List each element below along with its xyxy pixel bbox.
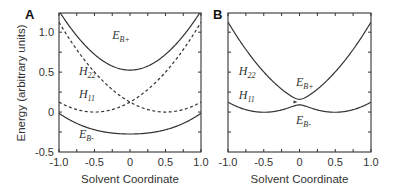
- y-axis-title: Energy (arbitrary units): [15, 24, 27, 141]
- gap-arrow-icon: [294, 101, 298, 104]
- x-tick-label: 0.5: [158, 156, 173, 168]
- y-tick-label: 0: [48, 106, 54, 118]
- figure: Energy (arbitrary units) A B EB+H22H11EB…: [0, 0, 394, 191]
- panel-b: H22EB+H11EB- -1.0 -0.5 0 0.5 1.0 Solvent…: [219, 13, 379, 185]
- curve-e-b-plus: [59, 11, 201, 70]
- x-tick-label: 1.0: [193, 156, 208, 168]
- panel-letter-a: A: [25, 7, 35, 22]
- x-axis-title: Solvent Coordinate: [251, 173, 349, 185]
- x-tick-label: 1.0: [363, 156, 378, 168]
- x-axis-title: Solvent Coordinate: [81, 173, 179, 185]
- x-tick-label: -1.0: [50, 156, 69, 168]
- y-tick-label: 1.0: [39, 26, 54, 38]
- x-tick-label: -0.5: [254, 156, 273, 168]
- panel-letter-b: B: [213, 7, 222, 22]
- curve-label: H11: [238, 88, 255, 104]
- x-tick-label: -0.5: [85, 156, 104, 168]
- x-tick-label: -1.0: [219, 156, 238, 168]
- x-tick-label: 0: [127, 156, 133, 168]
- panel-a: EB+H22H11EB- 1.0 0.5 0 -0.5 -1.0 -0.5 0 …: [35, 11, 209, 185]
- curve-label: H22: [78, 64, 96, 80]
- curve-label: EB+: [111, 28, 130, 44]
- x-tick-label: 0: [296, 156, 302, 168]
- x-tick-label: 0.5: [328, 156, 343, 168]
- curve-label: H11: [78, 87, 95, 103]
- curve-label: EB+: [295, 75, 314, 91]
- y-tick-label: 0.5: [39, 66, 54, 78]
- panel-a-curve-labels: EB+H22H11EB-: [78, 28, 130, 143]
- curve-label: H22: [238, 64, 256, 80]
- curve-label: EB-: [295, 113, 311, 129]
- panel-b-curve-labels: H22EB+H11EB-: [238, 64, 314, 129]
